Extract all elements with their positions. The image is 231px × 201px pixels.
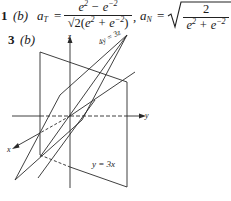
y-axis-label: y <box>145 111 149 120</box>
x-axis-back <box>70 72 135 116</box>
z-axis-label: z <box>68 32 71 41</box>
vertical-plane-hidden-edge <box>40 155 70 167</box>
intersection-line-upper <box>40 35 127 157</box>
vertical-plane-label: y = 3x <box>92 159 115 169</box>
intersection-line-lower <box>38 100 95 178</box>
x-axis-arrow-icon <box>12 143 20 149</box>
x-axis-label: x <box>7 145 11 154</box>
